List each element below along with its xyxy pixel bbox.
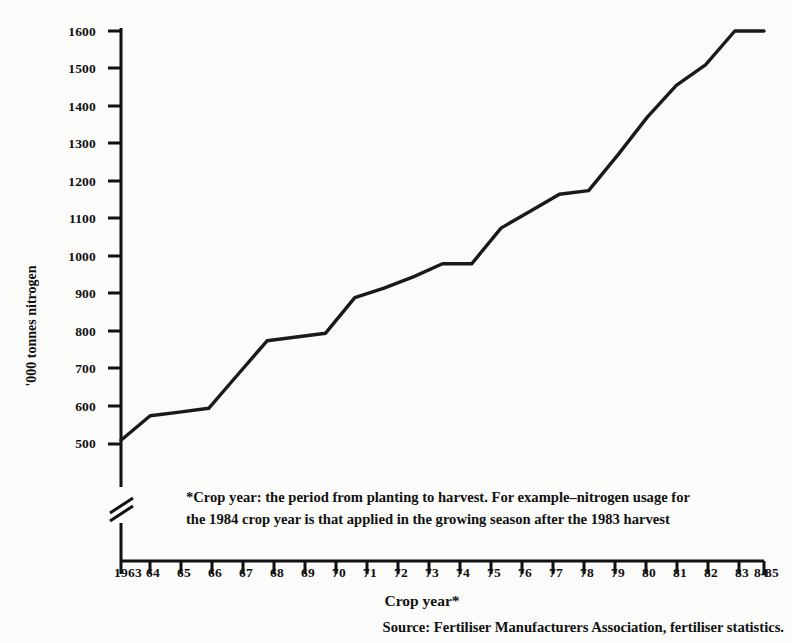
footnote-line-1: *Crop year: the period from planting to …: [186, 486, 786, 508]
y-tick-marks: [108, 31, 121, 444]
axis-break-icon: [110, 498, 133, 513]
chart-figure: '000 tonnes nitrogen 1600 1500 1400 1300…: [0, 0, 792, 643]
chart-canvas: [0, 0, 792, 643]
chart-footnote: *Crop year: the period from planting to …: [186, 486, 786, 530]
x-axis-label: Crop year*: [0, 592, 792, 610]
footnote-line-2: the 1984 crop year is that applied in th…: [186, 508, 786, 530]
x-tick-marks: [121, 561, 764, 574]
axis-break-icon: [110, 506, 133, 521]
source-note: Source: Fertiliser Manufacturers Associa…: [0, 619, 792, 636]
data-series-line: [121, 31, 764, 440]
